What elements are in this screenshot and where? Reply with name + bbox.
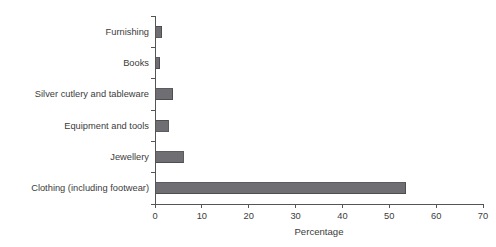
bar-furnishing (155, 26, 162, 37)
category-label-books: Books (123, 58, 149, 68)
x-axis-tick-label-0: 0 (152, 211, 157, 221)
x-axis-tick-label-50: 50 (384, 211, 394, 221)
category-label-furnishing: Furnishing (106, 27, 149, 37)
x-axis-tick-label-30: 30 (290, 211, 300, 221)
category-label-clothing-including-footwear: Clothing (including footwear) (31, 183, 149, 193)
chart-canvas: FurnishingBooksSilver cutlery and tablew… (0, 0, 496, 247)
bar-books (155, 58, 160, 69)
x-axis-tick-label-20: 20 (244, 211, 254, 221)
category-label-silver-cutlery-and-tableware: Silver cutlery and tableware (35, 89, 149, 99)
x-axis-tick-label-60: 60 (431, 211, 441, 221)
x-axis-tick-label-10: 10 (197, 211, 207, 221)
bar-clothing-including-footwear (155, 183, 406, 194)
x-axis-tick-label-40: 40 (337, 211, 347, 221)
bar-chart: FurnishingBooksSilver cutlery and tablew… (0, 0, 496, 247)
x-axis-title: Percentage (294, 226, 343, 237)
category-label-equipment-and-tools: Equipment and tools (64, 121, 149, 131)
category-label-jewellery: Jewellery (110, 152, 149, 162)
bar-equipment-and-tools (155, 120, 168, 131)
bar-silver-cutlery-and-tableware (155, 89, 173, 100)
bar-jewellery (155, 152, 183, 163)
x-axis-tick-label-70: 70 (478, 211, 488, 221)
